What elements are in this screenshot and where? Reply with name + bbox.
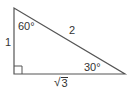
triangle-outline [14, 8, 125, 74]
side-label-hypotenuse: 2 [69, 25, 75, 36]
angle-label-30: 30° [84, 62, 101, 73]
side-label-horizontal: √ 3 [54, 76, 68, 89]
right-angle-marker [14, 66, 22, 74]
side-label-vertical: 1 [5, 37, 11, 48]
sqrt-radicand: 3 [61, 77, 68, 89]
angle-label-60: 60° [18, 21, 35, 32]
triangle-diagram: 60° 30° 1 2 √ 3 [0, 0, 133, 93]
sqrt-symbol: √ [54, 76, 61, 88]
